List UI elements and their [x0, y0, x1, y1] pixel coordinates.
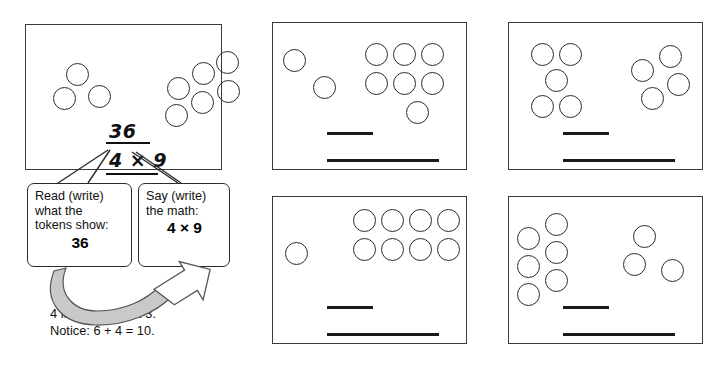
token-circle — [393, 72, 416, 95]
answer-line-expression[interactable] — [563, 333, 675, 336]
token-panel[interactable] — [272, 196, 467, 344]
token-circle — [313, 76, 336, 99]
answer-line-expression[interactable] — [563, 159, 675, 162]
answer-line-total[interactable] — [327, 306, 373, 309]
token-circle — [381, 238, 404, 261]
token-circle — [365, 43, 388, 66]
token-circle — [661, 259, 684, 282]
token-circle — [667, 73, 690, 96]
token-circle — [216, 51, 239, 74]
token-circle — [545, 269, 568, 292]
answer-line-total[interactable] — [563, 306, 609, 309]
token-circle — [437, 238, 460, 261]
token-circle — [353, 209, 376, 232]
token-circle — [353, 238, 376, 261]
token-circle — [517, 283, 540, 306]
callout-line: the math: — [146, 204, 223, 219]
token-circle — [437, 209, 460, 232]
answer-line-total[interactable] — [327, 132, 373, 135]
token-circle — [623, 253, 646, 276]
handwritten-total: 36 — [109, 120, 136, 142]
token-panel[interactable] — [508, 22, 703, 170]
token-circle — [517, 255, 540, 278]
token-circle — [659, 45, 682, 68]
token-circle — [66, 63, 89, 86]
token-circle — [633, 225, 656, 248]
handwritten-expression-rule — [106, 173, 158, 175]
callout-answer-value: 4 × 9 — [146, 219, 223, 237]
token-circle — [559, 95, 582, 118]
token-circle — [88, 85, 111, 108]
token-circle — [393, 43, 416, 66]
token-circle — [559, 43, 582, 66]
token-circle — [53, 87, 76, 110]
answer-line-total[interactable] — [563, 132, 609, 135]
token-circle — [165, 104, 188, 127]
token-panel[interactable] — [508, 196, 703, 344]
token-circle — [545, 213, 568, 236]
token-circle — [531, 43, 554, 66]
token-panel[interactable] — [272, 22, 467, 170]
caption-text: 4 is 1 more than 3.Notice: 6 + 4 = 10. — [50, 305, 156, 339]
token-circle — [191, 91, 214, 114]
token-circle — [285, 242, 308, 265]
token-circle — [421, 43, 444, 66]
token-circle — [192, 62, 215, 85]
token-circle — [409, 209, 432, 232]
token-circle — [167, 77, 190, 100]
callout-line: tokens show: — [35, 218, 125, 233]
callout-answer-value: 36 — [35, 234, 125, 252]
instruction-callout: Read (write)what thetokens show:36 — [27, 183, 132, 267]
caption-line: Notice: 6 + 4 = 10. — [50, 322, 156, 339]
callout-line: Say (write) — [146, 189, 223, 204]
token-circle — [283, 49, 306, 72]
token-circle — [217, 80, 240, 103]
token-circle — [409, 238, 432, 261]
token-circle — [631, 59, 654, 82]
token-circle — [365, 72, 388, 95]
token-circle — [406, 101, 429, 124]
token-circle — [381, 209, 404, 232]
callout-line: Read (write) — [35, 189, 125, 204]
token-panel[interactable]: 364 × 9 — [25, 24, 222, 170]
token-circle — [421, 72, 444, 95]
token-circle — [545, 69, 568, 92]
handwritten-total-rule — [106, 142, 150, 144]
handwritten-expression: 4 × 9 — [109, 149, 167, 171]
caption-line: 4 is 1 more than 3. — [50, 305, 156, 322]
token-circle — [641, 87, 664, 110]
worksheet-canvas: 364 × 9 Read (write)what thetokens show:… — [0, 0, 727, 367]
token-circle — [531, 95, 554, 118]
token-circle — [545, 241, 568, 264]
token-circle — [517, 227, 540, 250]
answer-line-expression[interactable] — [327, 159, 439, 162]
answer-line-expression[interactable] — [327, 333, 439, 336]
instruction-callout: Say (write)the math:4 × 9 — [138, 183, 230, 267]
callout-line: what the — [35, 204, 125, 219]
